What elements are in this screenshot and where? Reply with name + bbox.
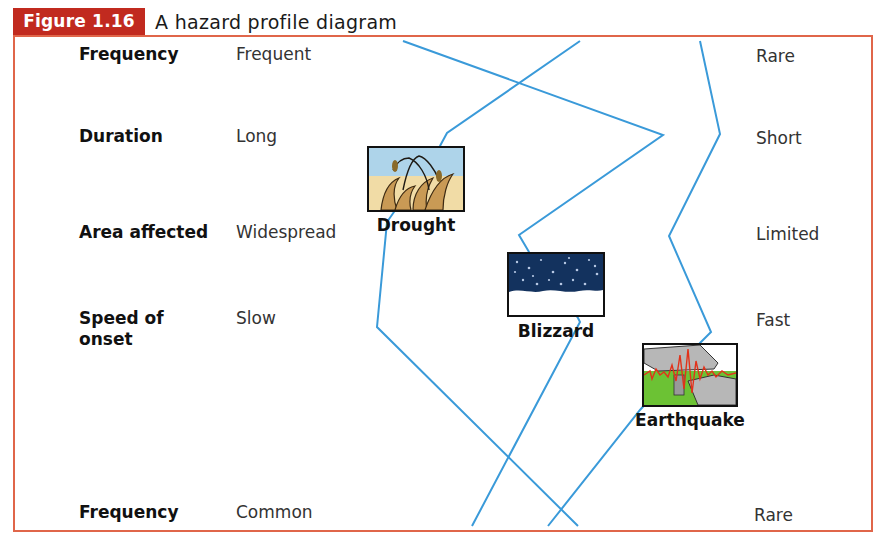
blizzard-icon bbox=[507, 252, 605, 317]
earthquake-label: Earthquake bbox=[630, 410, 750, 430]
profile-lines bbox=[0, 0, 878, 537]
earthquake-icon bbox=[642, 343, 738, 407]
drought-icon bbox=[367, 146, 465, 212]
blizzard-label: Blizzard bbox=[507, 321, 605, 341]
drought-label: Drought bbox=[367, 215, 465, 235]
